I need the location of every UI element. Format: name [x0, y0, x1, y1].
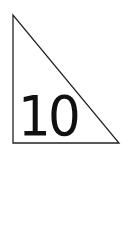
triangle-label: 10 — [18, 88, 78, 144]
